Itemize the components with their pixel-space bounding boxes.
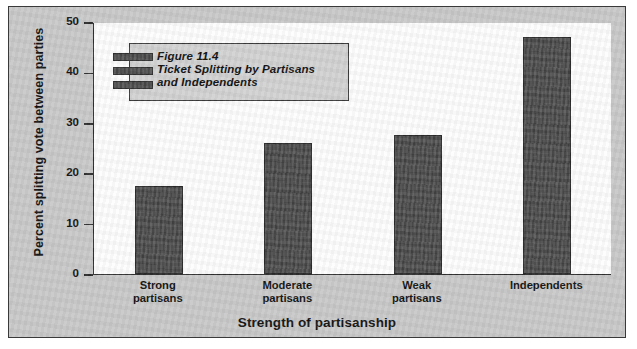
y-axis-tick-label: 10 xyxy=(66,217,79,229)
bar xyxy=(264,143,312,274)
x-axis-category-label: Strong partisans xyxy=(110,279,206,304)
y-axis-tick-label: 20 xyxy=(66,166,79,178)
caption-line: Figure 11.4 xyxy=(157,50,357,63)
y-axis-title: Percent splitting vote between parties xyxy=(32,0,46,349)
y-axis-tick-mark xyxy=(84,173,93,175)
x-axis-category-label: Independents xyxy=(498,279,594,292)
y-axis-tick-label: 40 xyxy=(66,65,79,77)
caption-rule-icon xyxy=(113,67,153,75)
caption-line: and Independents xyxy=(157,76,357,89)
caption-rule-icon xyxy=(113,81,153,89)
y-axis-tick-label: 0 xyxy=(73,267,79,279)
bar xyxy=(135,186,183,274)
y-axis-tick-mark xyxy=(84,224,93,226)
caption-rule-icon xyxy=(113,53,153,61)
y-axis-tick-mark xyxy=(84,274,93,276)
bar xyxy=(394,135,442,274)
y-axis-tick-label: 50 xyxy=(66,15,79,27)
caption-line: Ticket Splitting by Partisans xyxy=(157,63,357,76)
y-axis-tick-label: 30 xyxy=(66,116,79,128)
y-axis-tick-mark xyxy=(84,22,93,24)
y-axis-tick-mark xyxy=(84,73,93,75)
caption-decorative-rules xyxy=(113,53,153,91)
bar xyxy=(523,37,571,274)
x-axis-category-label: Weak partisans xyxy=(369,279,465,304)
y-axis-title-container: Percent splitting vote between parties xyxy=(31,17,53,279)
figure-plate: Percent splitting vote between parties 0… xyxy=(8,6,626,338)
x-axis-category-label: Moderate partisans xyxy=(239,279,335,304)
y-axis-tick-mark xyxy=(84,123,93,125)
x-axis-title: Strength of partisanship xyxy=(9,315,625,330)
caption-text: Figure 11.4 Ticket Splitting by Partisan… xyxy=(157,50,357,90)
